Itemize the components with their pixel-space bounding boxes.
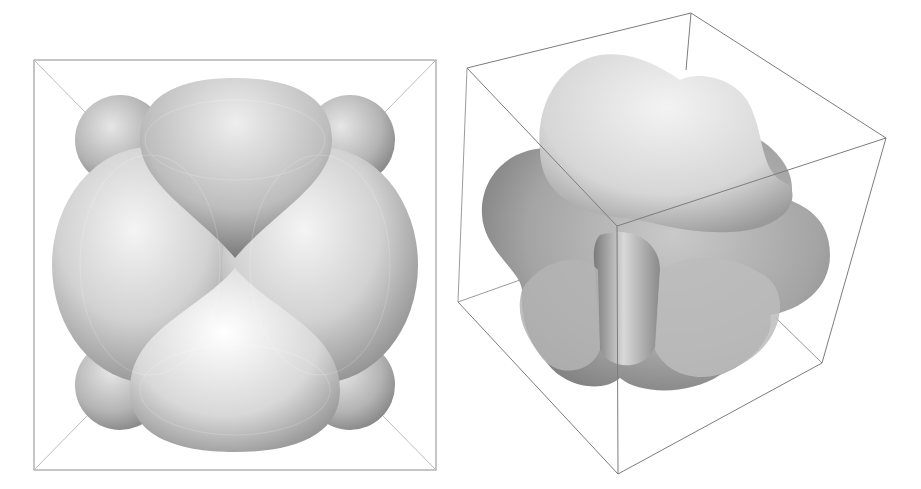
right-isosurface-render [450, 0, 921, 489]
left-panel [0, 0, 460, 489]
top-lobe [539, 54, 792, 232]
left-isosurface-render [0, 0, 460, 489]
right-lobe [655, 258, 780, 377]
right-panel [450, 0, 921, 489]
front-stem [594, 232, 660, 365]
